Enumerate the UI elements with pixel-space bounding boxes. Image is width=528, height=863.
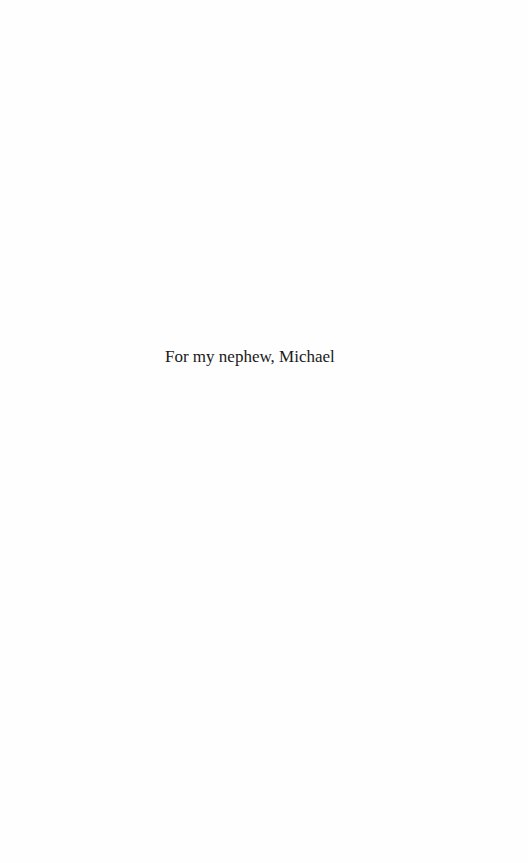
dedication-text: For my nephew, Michael <box>165 347 335 367</box>
document-page: For my nephew, Michael <box>0 0 528 863</box>
